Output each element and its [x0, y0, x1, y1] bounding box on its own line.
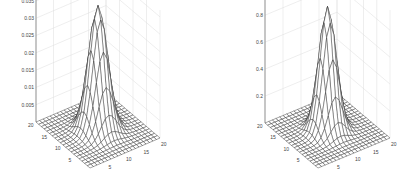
- x-tick-label: 10: [126, 156, 132, 162]
- z-tick-label: 0.035: [21, 0, 34, 4]
- surface-plot-right: 0.20.40.60.851015205101520: [206, 0, 412, 181]
- surface-plot-left-canvas: 0.0050.010.0150.020.0250.030.03551015205…: [0, 0, 206, 181]
- x-tick-label: 15: [144, 149, 150, 155]
- z-tick-label: 0.2: [256, 93, 263, 99]
- y-tick-label: 5: [297, 157, 300, 163]
- x-tick-label: 5: [337, 164, 340, 170]
- x-tick-label: 5: [109, 164, 112, 170]
- z-tick-label: 0.02: [24, 50, 34, 56]
- z-tick-label: 0.015: [21, 67, 34, 73]
- surface-plot-left: 0.0050.010.0150.020.0250.030.03551015205…: [0, 0, 206, 181]
- z-tick-label: 0.6: [256, 39, 263, 45]
- x-tick-label: 20: [391, 141, 397, 147]
- y-tick-label: 20: [28, 122, 34, 128]
- y-tick-label: 5: [69, 157, 72, 163]
- y-tick-label: 15: [270, 134, 276, 140]
- surface-plot-right-canvas: 0.20.40.60.851015205101520: [206, 0, 412, 181]
- x-tick-label: 20: [161, 141, 167, 147]
- z-tick-label: 0.8: [256, 12, 263, 18]
- z-tick-label: 0.025: [21, 32, 34, 38]
- z-tick-label: 0.01: [24, 84, 34, 90]
- z-tick-label: 0.005: [21, 102, 34, 108]
- y-tick-label: 10: [284, 146, 290, 152]
- z-tick-label: 0.4: [256, 66, 263, 72]
- x-tick-label: 10: [355, 156, 361, 162]
- z-tick-label: 0.03: [24, 15, 34, 21]
- y-tick-label: 10: [55, 145, 61, 151]
- y-tick-label: 20: [257, 123, 263, 129]
- y-tick-label: 15: [42, 134, 48, 140]
- surface-mesh: [265, 7, 390, 169]
- surface-mesh: [36, 6, 160, 169]
- x-tick-label: 15: [373, 149, 379, 155]
